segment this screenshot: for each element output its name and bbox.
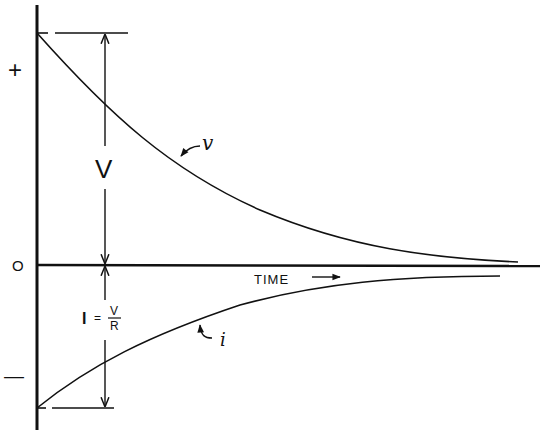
current-curve-label: i	[220, 329, 226, 350]
zero-label: O	[12, 257, 24, 274]
current-label-leader	[200, 325, 212, 338]
time-label: TIME	[254, 272, 289, 287]
current-curve	[37, 276, 500, 408]
voltage-curve	[37, 33, 518, 262]
current-fraction-denominator: R	[110, 319, 119, 333]
voltage-curve-label: v	[202, 131, 214, 155]
minus-label: —	[4, 365, 24, 387]
decay-diagram: + O — TIME V I = V R v i	[0, 0, 545, 437]
current-fraction-numerator: V	[110, 304, 118, 318]
current-I-label: I	[82, 310, 86, 327]
time-axis	[37, 265, 540, 266]
voltage-label: V	[95, 154, 113, 184]
plus-label: +	[8, 56, 22, 83]
current-eq-label: =	[94, 311, 101, 325]
voltage-label-leader	[181, 146, 200, 156]
